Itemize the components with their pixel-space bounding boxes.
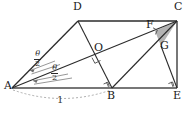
segment-b-c — [112, 21, 177, 88]
vertex-label-C: C — [174, 1, 182, 12]
measure-label-one: 1 — [57, 95, 63, 105]
vertex-label-F: F — [146, 19, 154, 30]
theta-numerator-lower: θ — [51, 64, 58, 72]
angle-label-theta-over-two-lower: θ 2 — [51, 64, 58, 82]
vertex-label-B: B — [107, 90, 115, 101]
segment-g-e — [161, 46, 177, 88]
theta-numerator-upper: θ — [34, 50, 41, 58]
vertex-label-D: D — [73, 1, 82, 12]
segment-a-d — [12, 21, 78, 88]
vertex-label-G: G — [160, 40, 169, 51]
segment-d-b — [78, 21, 112, 88]
vertex-label-O: O — [94, 42, 103, 53]
vertex-label-A: A — [4, 80, 12, 91]
theta-denominator-upper: 2 — [34, 60, 41, 68]
geometry-canvas — [0, 0, 193, 114]
angle-label-theta-over-two-upper: θ 2 — [34, 50, 41, 68]
geometry-figure: A B C D E F G O θ 2 θ 2 1 — [0, 0, 193, 114]
theta-denominator-lower: 2 — [51, 74, 58, 82]
vertex-label-E: E — [173, 90, 181, 101]
